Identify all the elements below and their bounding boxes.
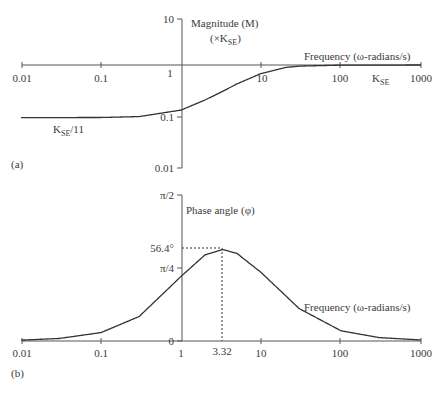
phase-ytick-0: 0 [169,335,175,347]
low-freq-gain-label: KSE/11 [53,123,84,138]
magnitude-xlabel: Frequency (ω-radians/s) [304,50,411,63]
bode-plot: 0.01 0.1 1 10 100 1000 10 0.1 0.01 Magni… [0,0,445,393]
mag-xtick-0.01: 0.01 [12,72,31,84]
phase-ytick-pi-2: π/2 [160,189,174,201]
mag-xtick-0.1: 0.1 [94,72,108,84]
phase-xtick-1: 1 [178,347,184,359]
phase-panel: 0.01 0.1 1 3.32 10 100 1000 π/2 56.4° π/… [11,189,433,380]
phase-xtick-1000: 1000 [410,347,433,359]
phase-xtick-10: 10 [256,347,268,359]
mag-xtick-100: 100 [332,72,349,84]
panel-label-a: (a) [11,158,24,171]
phase-curve [21,250,421,341]
mag-xtick-1: 1 [167,67,173,79]
mag-ytick-10: 10 [163,13,175,25]
magnitude-curve [21,65,421,118]
phase-ytick-pi-4: π/4 [160,262,175,274]
phase-xtick-0.01: 0.01 [12,347,31,359]
magnitude-ylabel-units: (×KSE) [210,32,241,47]
phase-y-ticks [177,195,182,341]
phase-xtick-0.1: 0.1 [94,347,108,359]
magnitude-ylabel: Magnitude (M) [191,17,259,30]
phase-ylabel: Phase angle (φ) [186,204,255,217]
mag-xtick-1000: 1000 [410,72,433,84]
phase-ytick-56.4: 56.4° [150,242,174,254]
phase-xlabel: Frequency (ω-radians/s) [304,301,411,314]
magnitude-y-ticks [177,19,182,168]
phase-xtick-100: 100 [332,347,349,359]
phase-xtick-3.32: 3.32 [212,345,231,357]
high-freq-gain-label: KSE [372,72,389,87]
panel-label-b: (b) [11,367,24,380]
mag-ytick-0.01: 0.01 [155,162,174,174]
magnitude-panel: 0.01 0.1 1 10 100 1000 10 0.1 0.01 Magni… [11,13,433,174]
